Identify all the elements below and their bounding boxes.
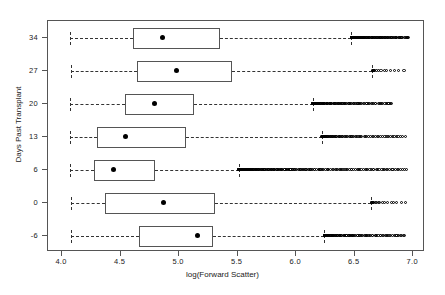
box-iqr: [125, 94, 194, 115]
x-tick-5: [354, 251, 355, 256]
y-tick-4: [42, 169, 47, 170]
y-tick-5: [42, 202, 47, 203]
whisker-high-line: [215, 203, 371, 204]
box-iqr: [137, 61, 232, 82]
whisker-high-line: [155, 170, 239, 171]
whisker-low-cap: [70, 98, 71, 111]
x-tick-label-3: 5.5: [217, 257, 257, 266]
y-tick-label-6: -6: [0, 231, 38, 240]
whisker-low-line: [71, 236, 139, 237]
x-axis-title: log(Forward Scatter): [0, 270, 445, 279]
mean-marker: [152, 101, 157, 106]
whisker-low-line: [70, 104, 125, 105]
outlier-point: [389, 69, 392, 72]
y-tick-3: [42, 136, 47, 137]
x-tick-3: [237, 251, 238, 256]
y-tick-6: [42, 235, 47, 236]
x-tick-label-1: 4.5: [100, 257, 140, 266]
whisker-high-line: [213, 236, 324, 237]
outlier-point: [385, 69, 388, 72]
outlier-point: [397, 69, 400, 72]
plot-area: [48, 21, 423, 250]
box-iqr: [139, 226, 213, 247]
box-iqr: [97, 127, 186, 148]
outlier-point: [393, 69, 396, 72]
x-tick-label-0: 4.0: [41, 257, 81, 266]
whisker-low-line: [70, 38, 133, 39]
x-tick-label-4: 6.0: [275, 257, 315, 266]
whisker-low-cap: [71, 230, 72, 243]
whisker-low-line: [71, 71, 137, 72]
outlier-point: [407, 36, 410, 39]
outlier-point: [402, 69, 405, 72]
box-iqr: [94, 160, 155, 181]
y-tick-label-0: 34: [0, 33, 38, 42]
whisker-high-line: [232, 71, 372, 72]
outlier-point: [405, 168, 408, 171]
y-axis-title: Days Past Transplant: [14, 55, 23, 195]
whisker-low-cap: [70, 32, 71, 45]
whisker-low-cap: [70, 164, 71, 177]
x-tick-label-2: 5.0: [158, 257, 198, 266]
outlier-point: [395, 201, 398, 204]
whisker-low-cap: [70, 131, 71, 144]
whisker-high-line: [220, 38, 351, 39]
x-tick-4: [295, 251, 296, 256]
outlier-point: [390, 102, 393, 105]
whisker-low-line: [70, 137, 97, 138]
outlier-point: [404, 135, 407, 138]
x-tick-0: [61, 251, 62, 256]
y-tick-label-5: 0: [0, 198, 38, 207]
box-iqr: [133, 28, 220, 49]
box-iqr: [105, 193, 215, 214]
x-tick-label-6: 7.0: [392, 257, 432, 266]
whisker-high-line: [194, 104, 312, 105]
plot-frame: [47, 20, 424, 251]
x-tick-label-5: 6.5: [334, 257, 374, 266]
mean-marker: [123, 134, 128, 139]
boxplot-figure: 4.04.55.05.56.06.57.0 3427201360-6 log(F…: [0, 0, 445, 295]
x-tick-1: [120, 251, 121, 256]
y-tick-2: [42, 103, 47, 104]
outlier-point: [400, 201, 403, 204]
whisker-low-cap: [71, 197, 72, 210]
y-tick-0: [42, 37, 47, 38]
outlier-point: [386, 201, 389, 204]
whisker-low-line: [71, 203, 105, 204]
outlier-point: [403, 234, 406, 237]
whisker-low-line: [70, 170, 93, 171]
x-tick-6: [412, 251, 413, 256]
whisker-low-cap: [71, 65, 72, 78]
y-tick-1: [42, 70, 47, 71]
whisker-high-line: [186, 137, 322, 138]
outlier-point: [404, 201, 407, 204]
x-tick-2: [178, 251, 179, 256]
